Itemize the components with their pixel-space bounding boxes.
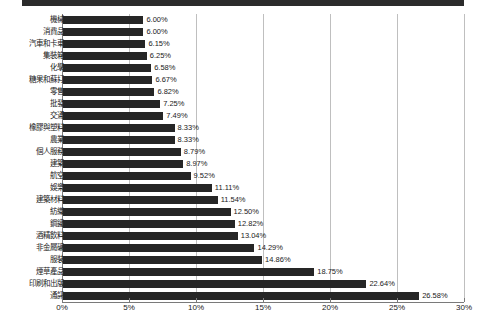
bar-row: 汽車和卡車6.15% <box>0 38 471 50</box>
bar <box>63 268 314 276</box>
bar-value-label: 6.25% <box>150 50 171 62</box>
category-label: 煙草產品 <box>6 266 64 278</box>
category-label: 橡膠與塑料 <box>6 122 64 134</box>
bar-row: 建築材料11.54% <box>0 194 471 206</box>
bar-row: 機械6.00% <box>0 14 471 26</box>
bar <box>63 280 366 288</box>
bar-row: 服裝14.86% <box>0 254 471 266</box>
category-label: 航空 <box>6 170 64 182</box>
plot-area: 機械6.00%消費品6.00%汽車和卡車6.15%集裝箱6.25%化學6.58%… <box>0 14 471 302</box>
bar-value-label: 12.82% <box>238 218 263 230</box>
bar-row: 個人服務8.79% <box>0 146 471 158</box>
x-axis-tick-label: 5% <box>109 302 149 314</box>
bar-value-label: 9.52% <box>194 170 215 182</box>
bar-row: 消費品6.00% <box>0 26 471 38</box>
bar-row: 非金屬礦14.29% <box>0 242 471 254</box>
bar <box>63 88 154 96</box>
category-label: 交通 <box>6 110 64 122</box>
bar-row: 航空9.52% <box>0 170 471 182</box>
category-label: 非金屬礦 <box>6 242 64 254</box>
bar <box>63 148 181 156</box>
bar <box>63 160 183 168</box>
bar-row: 鋼鐵12.82% <box>0 218 471 230</box>
bar-value-label: 26.58% <box>422 290 447 302</box>
bar <box>63 28 143 36</box>
bar <box>63 172 191 180</box>
category-label: 化學 <box>6 62 64 74</box>
category-label: 農業 <box>6 134 64 146</box>
bar-rows: 機械6.00%消費品6.00%汽車和卡車6.15%集裝箱6.25%化學6.58%… <box>0 14 471 302</box>
bar <box>63 64 151 72</box>
category-label: 建築材料 <box>6 194 64 206</box>
bar <box>63 100 160 108</box>
category-label: 酒精飲料 <box>6 230 64 242</box>
bar-row: 橡膠與塑料8.33% <box>0 122 471 134</box>
bar-value-label: 13.04% <box>241 230 266 242</box>
bar-row: 農業8.33% <box>0 134 471 146</box>
bar-row: 紡織12.50% <box>0 206 471 218</box>
bar-value-label: 7.49% <box>166 110 187 122</box>
bar-value-label: 14.86% <box>265 254 290 266</box>
bar-value-label: 11.11% <box>215 182 239 194</box>
category-label: 鋼鐵 <box>6 218 64 230</box>
bar <box>63 136 175 144</box>
cropped-header-band <box>22 0 464 6</box>
category-label: 印刷和出版 <box>6 278 64 290</box>
bar-value-label: 6.67% <box>155 74 176 86</box>
bar-row: 建築8.97% <box>0 158 471 170</box>
bar-row: 煙草產品18.75% <box>0 266 471 278</box>
bar <box>63 292 419 300</box>
x-axis-tick-label: 20% <box>310 302 350 314</box>
bar-row: 交通7.49% <box>0 110 471 122</box>
x-axis-tick-label: 30% <box>444 302 477 314</box>
bar-value-label: 7.25% <box>163 98 184 110</box>
bar <box>63 76 152 84</box>
bar-value-label: 8.33% <box>178 122 199 134</box>
x-axis-tick-label: 10% <box>176 302 216 314</box>
bar-row: 集裝箱6.25% <box>0 50 471 62</box>
bar-value-label: 12.50% <box>234 206 259 218</box>
category-label: 集裝箱 <box>6 50 64 62</box>
bar-value-label: 8.33% <box>178 134 199 146</box>
bar-row: 酒精飲料13.04% <box>0 230 471 242</box>
category-label: 消費品 <box>6 26 64 38</box>
bar <box>63 220 235 228</box>
bar <box>63 184 212 192</box>
x-axis-tick-labels: 0%5%10%15%20%25%30% <box>0 302 471 316</box>
bar-value-label: 6.00% <box>146 26 167 38</box>
category-label: 批發 <box>6 98 64 110</box>
bar <box>63 40 145 48</box>
bar-value-label: 18.75% <box>317 266 342 278</box>
bar-row: 化學6.58% <box>0 62 471 74</box>
category-label: 服裝 <box>6 254 64 266</box>
category-label: 娛樂 <box>6 182 64 194</box>
bar-row: 印刷和出版22.64% <box>0 278 471 290</box>
category-label: 個人服務 <box>6 146 64 158</box>
bar <box>63 16 143 24</box>
bar <box>63 112 163 120</box>
category-label: 紡織 <box>6 206 64 218</box>
bar <box>63 244 254 252</box>
category-label: 汽車和卡車 <box>6 38 64 50</box>
bar-row: 批發7.25% <box>0 98 471 110</box>
bar <box>63 256 262 264</box>
bar <box>63 124 175 132</box>
bar <box>63 208 231 216</box>
x-axis-tick-label: 25% <box>377 302 417 314</box>
bar-value-label: 6.15% <box>148 38 169 50</box>
bar-row: 娛樂11.11% <box>0 182 471 194</box>
bar <box>63 232 238 240</box>
category-label: 機械 <box>6 14 64 26</box>
bar-value-label: 11.54% <box>221 194 246 206</box>
bar-row: 零售6.82% <box>0 86 471 98</box>
bar-value-label: 14.29% <box>257 242 282 254</box>
category-label: 建築 <box>6 158 64 170</box>
bar <box>63 196 218 204</box>
bar-value-label: 6.82% <box>157 86 178 98</box>
bar-row: 糖果和蘇打6.67% <box>0 74 471 86</box>
category-label: 零售 <box>6 86 64 98</box>
x-axis-tick-label: 15% <box>243 302 283 314</box>
bar-value-label: 6.58% <box>154 62 175 74</box>
category-label: 糖果和蘇打 <box>6 74 64 86</box>
